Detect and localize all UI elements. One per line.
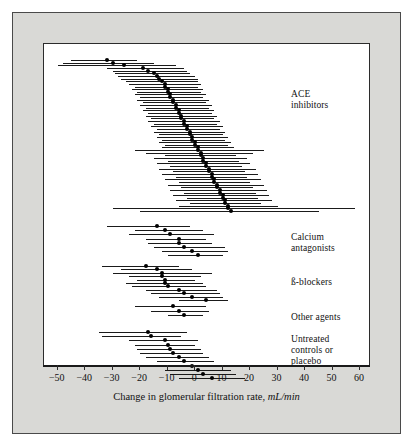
estimate-point-marker [171, 351, 175, 355]
estimate-point-marker [229, 209, 233, 213]
x-tick [222, 365, 223, 370]
x-tick [249, 365, 250, 370]
estimate-point-marker [177, 241, 181, 245]
x-tick [304, 365, 305, 370]
plot-panel: ACEinhibitorsCalciumantagonistsß-blocker… [43, 43, 370, 367]
estimate-point-marker [171, 304, 175, 308]
x-tick [167, 365, 168, 370]
confidence-interval-line [63, 63, 154, 64]
group-label-untreated-controls-or-placebo: Untreatedcontrols orplacebo [291, 334, 333, 367]
x-tick-label: −40 [76, 372, 92, 383]
group-label-ace-inhibitors: ACEinhibitors [291, 89, 328, 111]
confidence-interval-line [107, 226, 189, 227]
x-tick [139, 365, 140, 370]
estimate-point-marker [122, 63, 126, 67]
x-tick-label: 30 [272, 372, 282, 383]
estimate-point-marker [141, 66, 145, 70]
x-tick-label: 60 [354, 372, 364, 383]
estimate-point-marker [182, 313, 186, 317]
x-axis-label-text: Change in glomerular filtration rate, [113, 391, 268, 402]
x-tick [194, 365, 195, 370]
x-tick [84, 365, 85, 370]
group-label-other-agents: Other agents [291, 312, 340, 323]
estimate-point-marker [177, 309, 181, 313]
x-axis-line [43, 365, 370, 367]
x-tick-label: 10 [217, 372, 227, 383]
x-tick-label: 40 [299, 372, 309, 383]
x-axis-label: Change in glomerular filtration rate, mL… [43, 391, 370, 402]
estimate-point-marker [190, 249, 194, 253]
estimate-point-marker [190, 295, 194, 299]
estimate-point-marker [201, 372, 205, 376]
estimate-point-marker [155, 224, 159, 228]
estimate-point-marker [204, 298, 208, 302]
confidence-interval-line [99, 332, 187, 333]
x-tick-label: −10 [159, 372, 175, 383]
estimate-point-marker [182, 359, 186, 363]
group-label-line: ß-blockers [291, 277, 332, 288]
estimate-point-marker [163, 228, 167, 232]
confidence-interval-line [135, 230, 204, 231]
figure-frame: ACEinhibitorsCalciumantagonistsß-blocker… [12, 12, 401, 434]
x-tick [277, 365, 278, 370]
estimate-point-marker [146, 69, 150, 73]
group-label-line: controls or [291, 345, 333, 356]
group-label-calcium-antagonists: Calciumantagonists [291, 232, 335, 254]
x-tick-label: 20 [244, 372, 254, 383]
estimate-point-marker [163, 338, 167, 342]
confidence-interval-line [58, 65, 176, 66]
estimate-point-marker [105, 58, 109, 62]
x-axis-label-unit: mL/min [268, 391, 300, 402]
estimate-point-marker [177, 355, 181, 359]
group-label-line: ACE [291, 89, 328, 100]
estimate-point-marker [168, 232, 172, 236]
estimate-point-marker [166, 284, 170, 288]
confidence-interval-line [146, 290, 217, 291]
confidence-interval-line [154, 247, 225, 248]
estimate-point-marker [149, 334, 153, 338]
confidence-interval-line [113, 208, 355, 209]
x-tick [112, 365, 113, 370]
estimate-point-marker [111, 61, 115, 65]
estimate-point-marker [177, 288, 181, 292]
group-label-line: inhibitors [291, 100, 328, 111]
group-label-blockers: ß-blockers [291, 277, 332, 288]
group-label-line: antagonists [291, 243, 335, 254]
estimate-point-marker [155, 267, 159, 271]
group-label-line: Calcium [291, 232, 335, 243]
estimate-point-marker [196, 253, 200, 257]
x-tick-label: 0 [192, 372, 197, 383]
estimate-point-marker [182, 291, 186, 295]
confidence-interval-line [102, 266, 179, 267]
estimate-point-marker [210, 376, 214, 380]
estimate-point-marker [166, 343, 170, 347]
confidence-interval-line [146, 239, 206, 240]
confidence-interval-line [162, 251, 228, 252]
estimate-point-marker [182, 245, 186, 249]
group-label-line: Untreated [291, 334, 333, 345]
x-tick-label: −30 [104, 372, 120, 383]
x-tick [332, 365, 333, 370]
estimate-point-marker [177, 237, 181, 241]
group-label-line: Other agents [291, 312, 340, 323]
confidence-interval-line [135, 345, 195, 346]
x-tick-label: 50 [327, 372, 337, 383]
x-tick [359, 365, 360, 370]
x-tick-label: −20 [131, 372, 147, 383]
confidence-interval-line [102, 336, 182, 337]
estimate-point-marker [144, 264, 148, 268]
x-tick [57, 365, 58, 370]
x-tick-label: −50 [49, 372, 65, 383]
